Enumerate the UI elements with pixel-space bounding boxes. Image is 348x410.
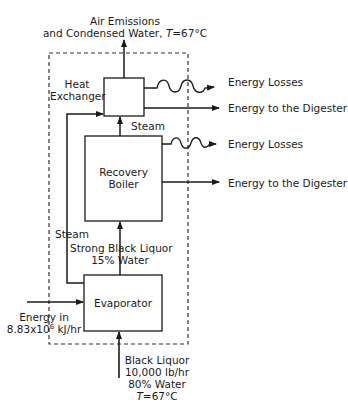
hx-energy-losses-label: Energy Losses	[228, 76, 303, 88]
black-liquor-label: Black Liquor 10,000 lb/hr 80% Water T=67…	[122, 354, 192, 402]
energy-in-line1: Energy in	[4, 311, 84, 323]
black-liquor-line2: 10,000 lb/hr	[122, 366, 192, 378]
energy-in-value: 8.83x10	[7, 323, 50, 335]
air-emissions-line1: Air Emissions	[40, 15, 210, 27]
hx-energy-digester-label: Energy to the Digester	[228, 102, 347, 114]
heat-exchanger-label: Heat Exchanger	[50, 78, 104, 102]
heat-exchanger-box	[104, 78, 144, 116]
black-liquor-line4: T=67°C	[122, 390, 192, 402]
rb-energy-digester-label: Energy to the Digester	[228, 177, 347, 189]
recovery-boiler-label: Recovery Boiler	[85, 166, 162, 190]
air-emissions-value: =67°C	[172, 27, 207, 39]
black-liquor-Tvalue: =67°C	[143, 390, 178, 402]
heat-exchanger-line2: Exchanger	[50, 90, 104, 102]
heat-exchanger-line1: Heat	[50, 78, 104, 90]
energy-in-line2: 8.83x106 kJ/hr	[4, 323, 84, 335]
recovery-boiler-line2: Boiler	[85, 178, 162, 190]
process-diagram	[0, 0, 348, 410]
energy-in-label: Energy in 8.83x106 kJ/hr	[4, 311, 84, 335]
strong-liquor-label: Strong Black Liquor 15% Water	[70, 242, 170, 266]
steam-evap-label: Steam	[55, 228, 89, 240]
air-emissions-line2: and Condensed Water, T=67°C	[40, 27, 210, 39]
steam-rb-label: Steam	[131, 120, 165, 132]
rb-energy-losses-arrow	[162, 138, 216, 149]
hx-energy-losses-arrow	[144, 80, 214, 92]
black-liquor-line1: Black Liquor	[122, 354, 192, 366]
strong-liquor-line2: 15% Water	[70, 254, 170, 266]
recovery-boiler-line1: Recovery	[85, 166, 162, 178]
rb-energy-losses-label: Energy Losses	[228, 138, 303, 150]
air-emissions-label: Air Emissions and Condensed Water, T=67°…	[40, 15, 210, 39]
air-emissions-prefix: and Condensed Water,	[43, 27, 166, 39]
black-liquor-line3: 80% Water	[122, 378, 192, 390]
strong-liquor-line1: Strong Black Liquor	[70, 242, 170, 254]
evaporator-label: Evaporator	[84, 297, 162, 309]
energy-in-unit: kJ/hr	[54, 323, 81, 335]
